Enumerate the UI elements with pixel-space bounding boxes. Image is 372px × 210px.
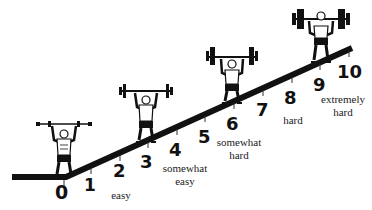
label-somewhat-easy-line1: somewhat [157, 162, 213, 175]
label-extremely-hard-line1: extremely [316, 93, 370, 106]
scale-number-2: 2 [113, 162, 126, 180]
effort-scale-diagram: 0 1 2 3 4 5 6 7 8 9 10 easy somewhat eas… [0, 0, 372, 210]
scale-number-10: 10 [337, 63, 362, 81]
scale-number-7: 7 [256, 101, 269, 119]
label-extremely-hard: extremely hard [316, 93, 370, 118]
label-hard-text: hard [283, 114, 303, 126]
label-easy: easy [106, 189, 136, 202]
scale-number-0: 0 [55, 183, 68, 202]
scale-number-3: 3 [140, 153, 153, 171]
label-easy-text: easy [111, 189, 131, 201]
label-extremely-hard-line2: hard [316, 106, 370, 119]
scale-number-6: 6 [226, 115, 239, 133]
label-hard: hard [278, 114, 308, 127]
scale-number-5: 5 [198, 128, 211, 146]
scale-number-1: 1 [84, 177, 96, 194]
label-somewhat-hard: somewhat hard [211, 136, 267, 161]
scale-number-4: 4 [169, 141, 182, 159]
label-somewhat-easy-line2: easy [157, 175, 213, 188]
scale-number-9: 9 [313, 76, 326, 94]
label-somewhat-hard-line1: somewhat [211, 136, 267, 149]
label-somewhat-easy: somewhat easy [157, 162, 213, 187]
scale-number-8: 8 [284, 89, 297, 107]
label-somewhat-hard-line2: hard [211, 149, 267, 162]
